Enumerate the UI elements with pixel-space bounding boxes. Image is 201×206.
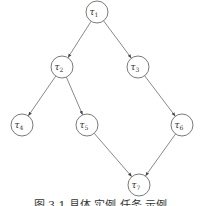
task-graph: τ1τ2τ3τ4τ5τ6τ7 [0,0,201,206]
node-t3: τ3 [127,56,149,78]
node-t6: τ6 [171,114,193,136]
node-t5: τ5 [76,114,98,136]
edge-t5-t7 [94,133,132,176]
edge-t1-t3 [104,21,132,58]
figure-caption: 图 3.1 具体 实例 任务 示例 [0,196,201,206]
nodes: τ1τ2τ3τ4τ5τ6τ7 [11,1,193,196]
edge-t2-t5 [66,77,82,115]
edge-t3-t6 [145,76,176,116]
edges [28,21,175,177]
node-t4: τ4 [11,114,33,136]
node-t1: τ1 [86,1,108,23]
edge-t1-t2 [68,21,91,57]
node-t2: τ2 [51,56,73,78]
node-t7: τ7 [128,174,150,196]
edge-t6-t7 [145,134,175,176]
edge-t2-t4 [28,76,56,116]
